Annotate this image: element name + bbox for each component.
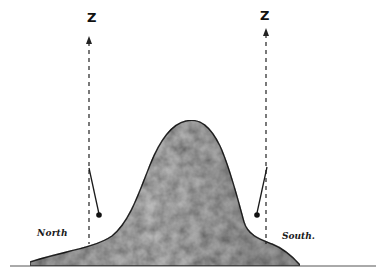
plumb-bob-right (254, 212, 260, 218)
zenith-label-right: Z (260, 8, 269, 23)
zenith-line-right (263, 28, 269, 244)
plumb-bob-left (96, 212, 102, 218)
south-label: South. (282, 231, 315, 241)
zenith-line-left (86, 36, 92, 244)
mountain-shape (30, 120, 300, 266)
arrow-up-icon (263, 28, 269, 36)
diagram-canvas: Z Z North South. (0, 0, 383, 277)
north-label: North (37, 228, 68, 238)
zenith-label-left: Z (87, 10, 96, 25)
plumb-line-left (89, 168, 102, 218)
arrow-up-icon (86, 36, 92, 44)
plumb-line-right (254, 167, 267, 218)
